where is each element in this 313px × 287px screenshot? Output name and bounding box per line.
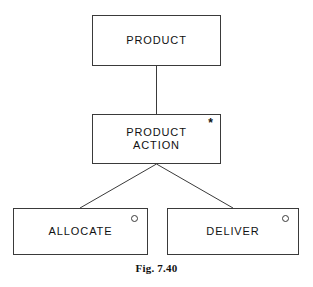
figure-caption: Fig. 7.40 (0, 262, 313, 274)
asterisk-icon: * (208, 117, 213, 129)
node-allocate[interactable]: ALLOCATE (13, 208, 148, 255)
node-allocate-label: ALLOCATE (49, 225, 113, 238)
node-product-label: PRODUCT (126, 34, 187, 47)
node-product-action[interactable]: * PRODUCT ACTION (92, 114, 221, 164)
circle-icon (131, 215, 138, 222)
node-product[interactable]: PRODUCT (92, 15, 221, 66)
node-deliver-label: DELIVER (206, 225, 259, 238)
node-deliver[interactable]: DELIVER (167, 208, 299, 255)
figure-diagram: PRODUCT * PRODUCT ACTION ALLOCATE DELIVE… (0, 0, 313, 287)
node-product-action-label: PRODUCT ACTION (126, 126, 187, 152)
edge-product-action-to-deliver (157, 164, 234, 208)
circle-icon (282, 215, 289, 222)
edge-product-action-to-allocate (80, 164, 157, 208)
